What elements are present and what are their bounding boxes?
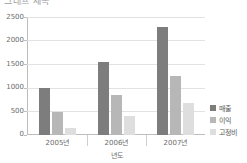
bar [183,103,194,135]
legend-label: 매출 [219,103,231,113]
clipped-title-strip: 그래프 제목 [0,0,247,7]
y-tick-mark [24,135,27,136]
bar [111,95,122,135]
x-axis-labels: 2005년2006년2007년 [28,137,205,147]
bar-groups [28,17,205,135]
bar [124,116,135,135]
legend-item[interactable]: 고정비 [210,126,237,138]
legend-item[interactable]: 이익 [210,114,237,126]
y-tick-label: 1500 [2,61,24,68]
bar-group [146,17,205,135]
x-axis-label: 2006년 [87,137,146,147]
legend-swatch-icon [210,105,216,111]
x-axis-label: 2005년 [28,137,87,147]
y-tick-label: 1000 [2,84,24,91]
y-tick-label: 500 [2,108,24,115]
bar-group [28,17,87,135]
bar [170,76,181,135]
legend: 매출이익고정비 [210,102,237,138]
bar [65,128,76,135]
bar [39,88,50,135]
y-tick-label: 0 [2,131,24,138]
legend-label: 고정비 [219,127,237,137]
bar [52,112,63,135]
bar [98,62,109,135]
legend-item[interactable]: 매출 [210,102,237,114]
y-tick-label: 2000 [2,37,24,44]
bar [157,27,168,135]
legend-label: 이익 [219,115,231,125]
legend-swatch-icon [210,129,216,135]
x-axis-label: 2007년 [146,137,205,147]
chart-title: 그래프 제목 [4,0,50,7]
y-tick-label: 2500 [2,14,24,21]
bar-chart: 그래프 제목 2500 2000 1500 1000 500 0 2005년20… [0,0,247,163]
x-axis-title: 년도 [28,150,205,160]
bar-group [87,17,146,135]
legend-swatch-icon [210,117,216,123]
